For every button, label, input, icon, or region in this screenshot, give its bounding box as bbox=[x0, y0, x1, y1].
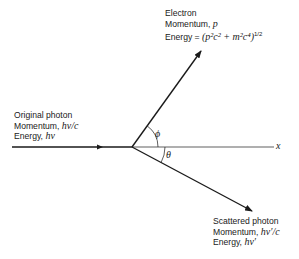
theta-label: θ bbox=[166, 149, 171, 160]
original-photon-label: Original photon Momentum, hν/c Energy, h… bbox=[14, 110, 78, 142]
incoming-photon-arrow-icon bbox=[97, 145, 103, 150]
electron-momentum: Momentum, p bbox=[165, 19, 262, 30]
electron-label: Electron Momentum, p Energy = (p²c² + m²… bbox=[165, 8, 262, 42]
theta-arc bbox=[161, 147, 165, 163]
scattered-photon-line bbox=[132, 147, 252, 211]
scattered-photon-energy: Energy, hν′ bbox=[213, 237, 280, 248]
scattered-photon-label: Scattered photon Momentum, hν′/c Energy,… bbox=[213, 216, 280, 248]
phi-label: ϕ bbox=[155, 128, 160, 139]
electron-energy: Energy = (p²c² + m²c⁴)1/2 bbox=[165, 29, 262, 42]
x-axis-label: x bbox=[276, 140, 280, 151]
compton-diagram: Electron Momentum, p Energy = (p²c² + m²… bbox=[0, 0, 299, 259]
electron-line bbox=[132, 51, 201, 147]
original-photon-energy: Energy, hν bbox=[14, 131, 78, 142]
